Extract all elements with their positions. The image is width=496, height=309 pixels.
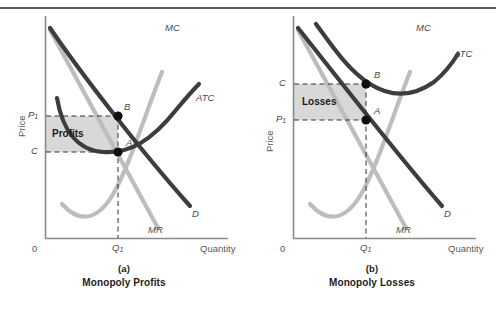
y-axis-label-b: Price — [264, 130, 275, 152]
point-label-b-a: B — [124, 101, 130, 112]
cost-tick-label-b: C — [279, 77, 286, 88]
curve-label-d-a: D — [192, 208, 199, 219]
plot-area-b — [248, 0, 496, 258]
price-tick-label-b: P1 — [276, 113, 286, 124]
quantity-tick-label-a: Q1 — [112, 242, 123, 253]
shaded-region-label-a: Profits — [52, 128, 84, 139]
shaded-region-label-b: Losses — [302, 96, 336, 107]
origin-label-b: 0 — [280, 243, 285, 254]
point-b-b — [361, 79, 370, 88]
curve-label-atc-b: ATC — [454, 48, 472, 59]
panel-monopoly-losses: Price Quantity 0 C P1 Q1 Losses B A MC M… — [248, 0, 496, 309]
point-label-b-b: B — [374, 69, 380, 80]
curve-label-mr-b: MR — [396, 224, 411, 235]
quantity-tick-label-b: Q1 — [360, 242, 371, 253]
curve-label-mc-b: MC — [416, 22, 431, 33]
caption-letter-b: (b) — [248, 263, 496, 274]
plot-area-a — [0, 0, 248, 258]
caption-title-a: Monopoly Profits — [0, 277, 248, 288]
point-a-b — [361, 115, 370, 124]
x-axis-label-a: Quantity — [200, 243, 235, 254]
cost-tick-label-a: C — [31, 145, 38, 156]
panel-monopoly-profits: Price Quantity 0 P1 C Q1 Profits B A MC … — [0, 0, 248, 309]
point-label-a-a: A — [126, 137, 132, 148]
curve-label-d-b: D — [444, 208, 451, 219]
curve-atc-b — [316, 24, 458, 94]
y-axis-label-a: Price — [16, 115, 27, 137]
point-b-a — [113, 111, 122, 120]
curve-label-atc-a: ATC — [196, 92, 214, 103]
price-tick-label-a: P1 — [28, 109, 38, 120]
origin-label-a: 0 — [32, 243, 37, 254]
caption-letter-a: (a) — [0, 263, 248, 274]
point-a-a — [113, 147, 122, 156]
curve-label-mr-a: MR — [148, 224, 163, 235]
curve-label-mc-a: MC — [165, 22, 180, 33]
point-label-a-b: A — [374, 105, 380, 116]
x-axis-label-b: Quantity — [448, 243, 483, 254]
caption-title-b: Monopoly Losses — [248, 277, 496, 288]
